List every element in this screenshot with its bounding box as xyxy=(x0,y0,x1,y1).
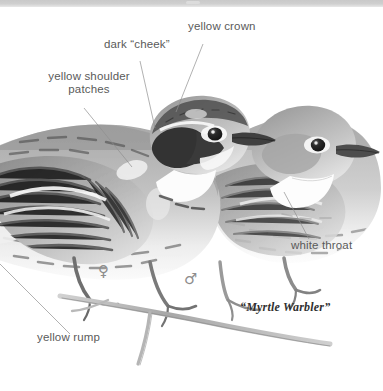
annotation-label-yellow-rump: yellow rump xyxy=(37,331,100,344)
annotation-label-line-1: yellow shoulder xyxy=(48,70,130,82)
illustration-plate: yellow crown dark “cheek” yellow shoulde… xyxy=(0,0,383,391)
annotation-label-yellow-shoulder-patches: yellow shoulder patches xyxy=(34,70,144,96)
annotation-label-dark-cheek: dark “cheek” xyxy=(104,38,170,51)
annotation-label-yellow-crown: yellow crown xyxy=(188,20,256,33)
leader-line-yellow-shoulder-patches xyxy=(84,108,132,167)
leader-line-yellow-rump xyxy=(0,262,70,334)
male-symbol-icon: ♂ xyxy=(184,272,197,287)
leader-line-yellow-crown xyxy=(176,44,203,112)
annotation-label-white-throat: white throat xyxy=(291,239,352,252)
annotation-label-line-2: patches xyxy=(68,83,109,95)
female-symbol-icon: ♀ xyxy=(98,264,109,279)
leader-line-white-throat xyxy=(284,192,309,239)
species-caption: “Myrtle Warbler” xyxy=(240,300,330,315)
